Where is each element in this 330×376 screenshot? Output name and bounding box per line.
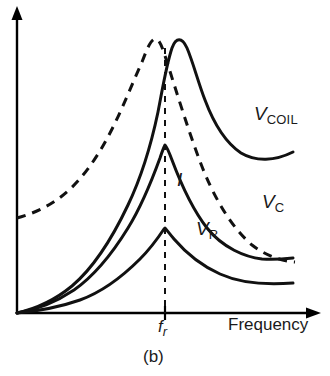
curve-label-vr: VR <box>196 219 218 238</box>
y-axis-arrowhead <box>12 6 23 20</box>
curve-label-vr-subscript: R <box>209 227 219 242</box>
curve-label-current: I <box>177 170 182 189</box>
figure-caption: (b) <box>143 348 164 365</box>
curve-vc <box>17 39 295 262</box>
curve-vcoil <box>17 40 293 313</box>
resonance-curve-figure: VCOIL VC VR I fr Frequency (b) <box>0 0 330 376</box>
curve-label-vcoil: VCOIL <box>254 104 298 123</box>
curve-label-vcoil-subscript: COIL <box>267 112 298 127</box>
x-axis-label: Frequency <box>228 316 308 333</box>
curve-label-current-symbol: I <box>177 169 182 190</box>
curve-i <box>17 145 293 313</box>
x-axis-tick-label-fr: fr <box>158 318 167 335</box>
curve-label-vr-symbol: V <box>196 218 209 239</box>
curve-label-vc-symbol: V <box>262 191 275 212</box>
curve-label-vc: VC <box>262 192 284 211</box>
curve-label-vc-subscript: C <box>275 200 285 215</box>
curve-label-vcoil-symbol: V <box>254 103 267 124</box>
x-axis-tick-label-subscript: r <box>163 324 167 339</box>
